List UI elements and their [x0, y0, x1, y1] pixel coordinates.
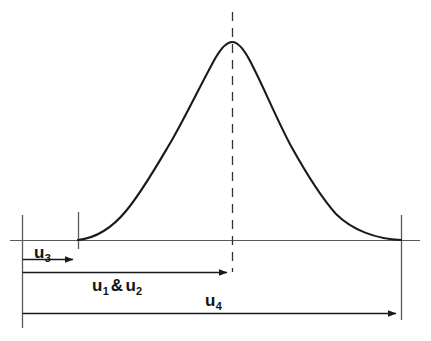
label-u1-subscript: 1	[103, 285, 109, 297]
label-u4-base: u	[205, 291, 216, 310]
label-u3-subscript: 3	[45, 252, 51, 264]
bell-curve-path	[78, 42, 401, 240]
label-u3: u3	[34, 244, 51, 261]
label-u2-base: u	[125, 276, 136, 295]
label-u1-and-u2: u1&u2	[92, 277, 142, 294]
label-u3-base: u	[34, 243, 45, 262]
label-u1-base: u	[92, 276, 103, 295]
figure-canvas: u3 u1&u2 u4	[0, 0, 431, 341]
figure-drawing	[0, 0, 431, 341]
label-u2-subscript: 2	[136, 285, 142, 297]
label-u4: u4	[205, 292, 222, 309]
label-ampersand: &	[109, 276, 126, 295]
label-u4-subscript: 4	[216, 300, 222, 312]
